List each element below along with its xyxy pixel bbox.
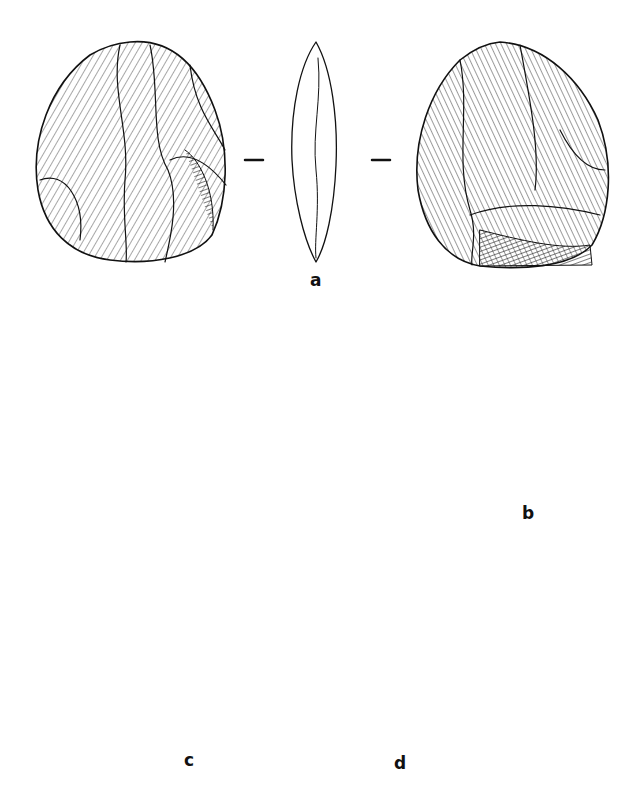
artifact-a-face-1: [36, 42, 226, 262]
label-d: d: [394, 755, 406, 772]
label-c: c: [184, 752, 194, 769]
artifact-a-face-2: [417, 42, 609, 268]
label-b: b: [522, 505, 534, 522]
illustration-plate: [0, 0, 642, 805]
label-a: a: [310, 272, 321, 289]
artifact-a-profile: [292, 42, 337, 262]
